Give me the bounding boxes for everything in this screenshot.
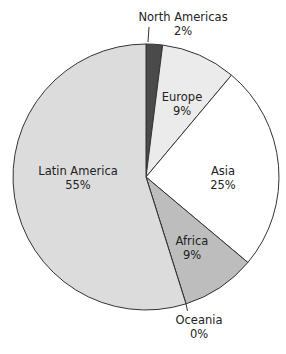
label-europe: Europe [162, 90, 202, 104]
label-oceania: Oceania [175, 313, 222, 327]
label-latin-america: Latin America [38, 164, 118, 178]
label-africa-pct: 9% [183, 248, 201, 262]
label-oceania-pct: 0% [190, 327, 208, 341]
label-asia-pct: 25% [210, 178, 236, 192]
north-americas-leader-line [148, 27, 149, 42]
pie-chart: North Americas 2% Europe 9% Asia 25% Lat… [0, 0, 286, 354]
label-africa: Africa [176, 234, 209, 248]
label-asia: Asia [211, 164, 235, 178]
label-north-americas-pct: 2% [174, 24, 192, 38]
label-latin-america-pct: 55% [65, 178, 91, 192]
label-europe-pct: 9% [173, 104, 191, 118]
oceania-leader-line [186, 304, 188, 311]
label-north-americas: North Americas [138, 10, 227, 24]
